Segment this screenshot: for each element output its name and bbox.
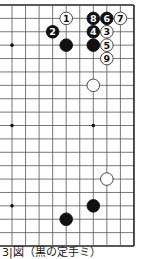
star-point — [10, 43, 14, 47]
black-stone — [87, 200, 100, 213]
black-stone — [87, 39, 100, 52]
star-point — [10, 204, 14, 208]
move-number: 6 — [104, 13, 111, 24]
black-stone — [60, 39, 73, 52]
go-board: 123456789 — [0, 0, 141, 248]
star-point — [92, 124, 96, 128]
move-number: 5 — [104, 40, 111, 51]
white-stone — [101, 173, 114, 186]
move-number: 8 — [90, 13, 97, 24]
move-number: 3 — [104, 26, 111, 37]
move-number: 1 — [63, 13, 70, 24]
black-stone — [60, 213, 73, 226]
white-stone — [87, 79, 100, 92]
move-number: 9 — [104, 53, 111, 64]
move-number: 2 — [49, 26, 56, 37]
move-number: 7 — [117, 13, 124, 24]
star-point — [10, 124, 14, 128]
move-number: 4 — [90, 26, 97, 37]
diagram-caption: 3|図（黒の定手ミ） — [2, 247, 101, 259]
